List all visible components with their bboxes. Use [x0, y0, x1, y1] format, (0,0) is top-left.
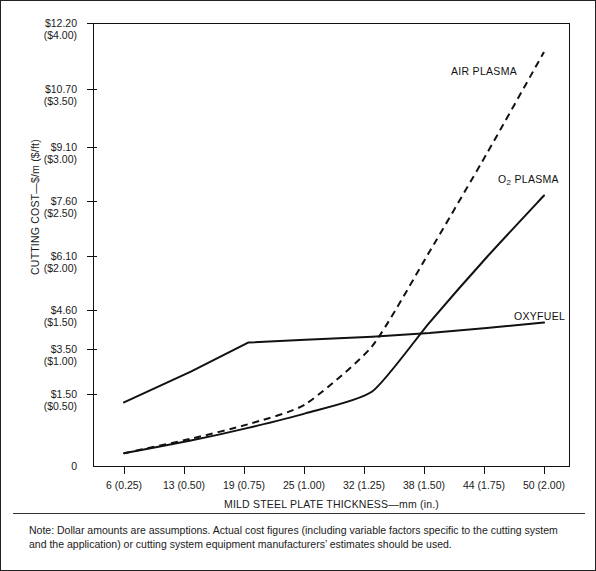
y-tick-label-metric: $3.50 — [15, 343, 77, 355]
series-label-o2-sub: 2 — [506, 178, 511, 187]
y-tick-label: $3.50 ($1.00) — [15, 343, 77, 367]
y-tick-label-metric: 0 — [15, 460, 77, 472]
y-tick-label-imperial: ($0.50) — [15, 400, 77, 412]
y-tick-label-imperial: ($4.00) — [15, 29, 77, 41]
y-tick-label: $7.60 ($2.50) — [15, 195, 77, 219]
y-tick-label: $1.50 ($0.50) — [15, 388, 77, 412]
y-tick-label: $10.70 ($3.50) — [15, 83, 77, 107]
note-divider — [13, 513, 585, 514]
x-tick-mark — [364, 466, 365, 474]
y-tick-label-imperial: ($2.50) — [15, 207, 77, 219]
x-tick-mark — [124, 466, 125, 474]
x-tick-mark — [304, 466, 305, 474]
y-tick-label-metric: $7.60 — [15, 195, 77, 207]
x-axis-line — [93, 466, 570, 467]
y-tick-label-metric: $9.10 — [15, 141, 77, 153]
y-tick-label: $4.60 ($1.50) — [15, 304, 77, 328]
y-tick-label: $9.10 ($3.00) — [15, 141, 77, 165]
y-tick-label-imperial: ($1.00) — [15, 355, 77, 367]
series-label-oxyfuel: OXYFUEL — [514, 310, 565, 322]
plot-area — [93, 23, 569, 466]
series-line-oxyfuel — [124, 323, 544, 403]
x-tick-label: 50 (2.00) — [504, 479, 584, 491]
y-tick-label-imperial: ($2.00) — [15, 262, 77, 274]
y-tick-label-metric: $6.10 — [15, 250, 77, 262]
series-label-air-plasma: AIR PLASMA — [451, 65, 517, 77]
series-line-o2-plasma — [124, 195, 544, 453]
y-tick-label-metric: $4.60 — [15, 304, 77, 316]
y-axis-title: CUTTING COST—$/m ($/ft) — [29, 77, 41, 337]
y-tick-label: $6.10 ($2.00) — [15, 250, 77, 274]
chart-curves — [93, 23, 569, 466]
y-tick-label: $12.20 ($4.00) — [15, 17, 77, 41]
series-label-o2-plasma: O2 PLASMA — [498, 173, 559, 185]
y-tick-label-zero: 0 — [15, 460, 77, 472]
x-axis-title: MILD STEEL PLATE THICKNESS—mm (in.) — [93, 498, 570, 510]
x-tick-mark — [244, 466, 245, 474]
y-tick-label-metric: $12.20 — [15, 17, 77, 29]
series-label-o2-rest: PLASMA — [511, 173, 559, 185]
x-tick-mark — [184, 466, 185, 474]
figure-frame: $12.20 ($4.00) $10.70 ($3.50) $9.10 ($3.… — [0, 0, 596, 571]
x-tick-mark — [424, 466, 425, 474]
figure-note: Note: Dollar amounts are assumptions. Ac… — [29, 523, 573, 551]
x-tick-mark — [484, 466, 485, 474]
series-line-air-plasma — [124, 52, 544, 453]
y-tick-label-imperial: ($3.00) — [15, 153, 77, 165]
y-tick-label-imperial: ($1.50) — [15, 316, 77, 328]
y-tick-label-metric: $1.50 — [15, 388, 77, 400]
plot-right-border — [569, 23, 570, 467]
y-tick-label-imperial: ($3.50) — [15, 95, 77, 107]
x-tick-mark — [544, 466, 545, 474]
y-tick-label-metric: $10.70 — [15, 83, 77, 95]
